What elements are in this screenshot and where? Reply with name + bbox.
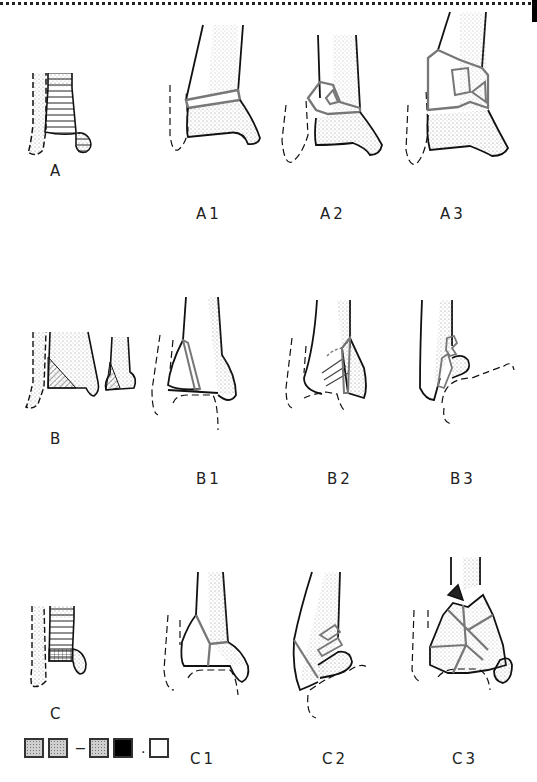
subtype-b1-figure (148, 295, 268, 439)
label-a2: A2 (320, 205, 346, 223)
bone-diagram-a3 (400, 10, 510, 170)
bone-diagram-c2 (290, 570, 400, 730)
label-c: C (50, 705, 63, 723)
overview-c-figure (22, 606, 102, 690)
legend-swatch-dotted-3 (89, 738, 109, 758)
bone-diagram-a2 (278, 20, 388, 170)
label-a1: A1 (196, 205, 222, 223)
bone-diagram-b3 (412, 298, 532, 428)
subtype-c3-figure (408, 555, 533, 709)
label-a3: A3 (440, 205, 466, 223)
label-a: A (50, 162, 63, 180)
legend-swatch-black (113, 738, 133, 758)
top-dotted-border (0, 2, 531, 5)
subtype-c1-figure (158, 570, 268, 714)
bone-diagram-b1 (148, 295, 268, 435)
overview-b-figure (18, 332, 128, 416)
label-b3: B3 (450, 470, 476, 488)
legend-separator-dot: . (141, 738, 145, 758)
bone-diagram-a1 (158, 20, 268, 160)
legend-swatch-dotted-2 (48, 738, 68, 758)
subtype-b3-figure (412, 298, 532, 432)
bone-diagram-c (22, 606, 102, 686)
label-b2: B2 (327, 470, 353, 488)
label-c3: C3 (452, 750, 478, 768)
overview-a-figure (18, 70, 98, 164)
subtype-a1-figure (158, 20, 268, 164)
legend-separator-dash: – (76, 738, 85, 758)
subtype-a3-figure (400, 10, 510, 174)
legend: – . (24, 738, 173, 758)
subtype-a2-figure (278, 20, 388, 174)
label-c1: C1 (190, 750, 216, 768)
legend-swatch-dotted-1 (24, 738, 44, 758)
bone-diagram-b (18, 332, 128, 412)
corner-mark (532, 0, 537, 22)
bone-diagram-c3 (408, 555, 533, 705)
label-c2: C2 (322, 750, 348, 768)
bone-diagram-a (18, 70, 98, 160)
subtype-b2-figure (282, 298, 392, 432)
subtype-c2-figure (290, 570, 400, 734)
label-b: B (50, 430, 63, 448)
bone-diagram-b2 (282, 298, 392, 428)
label-b1: B1 (196, 470, 222, 488)
bone-diagram-c1 (158, 570, 268, 710)
legend-swatch-white (149, 738, 169, 758)
